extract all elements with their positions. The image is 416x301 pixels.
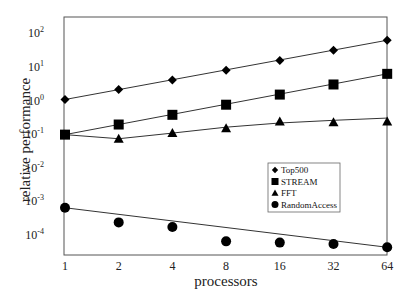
circle-marker bbox=[114, 217, 124, 227]
x-tick-label: 16 bbox=[274, 259, 286, 273]
diamond-marker bbox=[168, 76, 177, 85]
circle-marker bbox=[167, 222, 177, 232]
square-marker bbox=[114, 120, 124, 130]
series-points-top500 bbox=[61, 36, 392, 104]
chart: 10210110010-110-210-310-4 1248163264 pro… bbox=[0, 0, 416, 301]
square-marker bbox=[382, 69, 392, 79]
series-markers bbox=[60, 36, 392, 253]
y-tick-label: 102 bbox=[28, 25, 44, 40]
circle-marker bbox=[60, 203, 70, 213]
circle-marker bbox=[382, 242, 392, 252]
diamond-marker bbox=[383, 36, 392, 45]
square-marker bbox=[167, 110, 177, 120]
plot-frame bbox=[64, 17, 387, 255]
diamond-marker bbox=[222, 66, 231, 75]
x-tick-label: 32 bbox=[328, 259, 340, 273]
triangle-marker bbox=[329, 117, 339, 126]
legend-item: STREAM bbox=[272, 177, 318, 187]
legend-label: STREAM bbox=[281, 177, 318, 187]
legend-label: Top500 bbox=[281, 165, 309, 175]
y-tick-label: 10-4 bbox=[25, 227, 44, 242]
y-axis-title: relative performance bbox=[17, 77, 33, 202]
diamond-marker bbox=[61, 95, 70, 104]
diamond-marker bbox=[275, 56, 284, 65]
square-marker bbox=[272, 178, 279, 185]
x-tick-label: 1 bbox=[62, 259, 68, 273]
square-marker bbox=[275, 90, 285, 100]
diamond-marker bbox=[114, 85, 123, 94]
circle-marker bbox=[329, 239, 339, 249]
legend-label: FFT bbox=[281, 188, 297, 198]
triangle-marker bbox=[275, 117, 285, 126]
x-tick-label: 64 bbox=[381, 259, 393, 273]
legend-item: RandomAccess bbox=[272, 200, 338, 210]
circle-marker bbox=[221, 236, 231, 246]
x-tick-label: 4 bbox=[169, 259, 175, 273]
legend-label: RandomAccess bbox=[281, 200, 337, 210]
square-marker bbox=[221, 100, 231, 110]
series-points-fft bbox=[60, 117, 392, 143]
x-tick-label: 8 bbox=[223, 259, 229, 273]
circle-marker bbox=[272, 201, 279, 208]
square-marker bbox=[329, 79, 339, 89]
legend: Top500STREAMFFTRandomAccess bbox=[268, 163, 340, 212]
x-axis-ticks: 1248163264 bbox=[62, 259, 393, 273]
y-tick-label: 101 bbox=[28, 59, 44, 74]
x-tick-label: 2 bbox=[116, 259, 122, 273]
diamond-marker bbox=[329, 46, 338, 55]
x-axis-title: processors bbox=[194, 273, 257, 289]
circle-marker bbox=[275, 238, 285, 248]
